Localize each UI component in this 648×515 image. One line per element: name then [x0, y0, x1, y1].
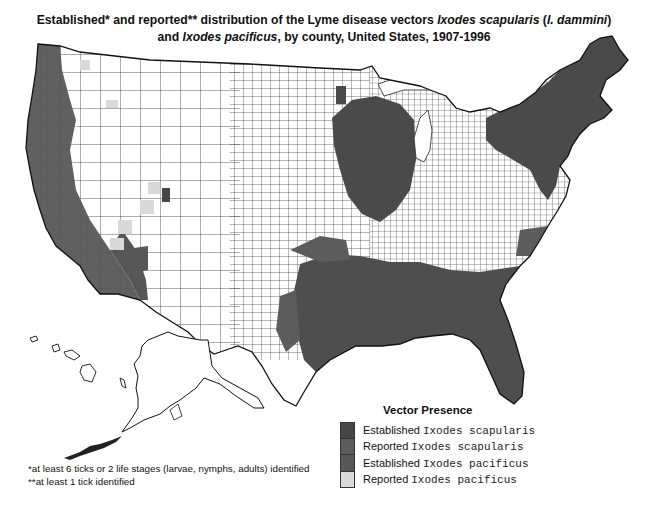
legend-species: Ixodes pacificus — [411, 474, 517, 486]
title-text: , by county, United States, 1907-1996 — [277, 30, 490, 44]
footnote-reported: **at least 1 tick identified — [28, 475, 310, 488]
legend-label: EstablishedIxodes scapularis — [363, 424, 535, 437]
title-synonym: I. dammini — [547, 13, 607, 27]
title-species: Ixodes pacificus — [183, 30, 278, 44]
legend-swatch — [340, 439, 355, 456]
footnotes: *at least 6 ticks or 2 life stages (larv… — [28, 462, 310, 488]
legend-species: Ixodes scapularis — [423, 425, 535, 437]
legend-label: ReportedIxodes pacificus — [363, 473, 517, 486]
legend-status: Reported — [363, 473, 408, 485]
title-paren: ) — [607, 13, 611, 27]
footnote-established: *at least 6 ticks or 2 life stages (larv… — [28, 462, 310, 475]
legend-item: ReportedIxodes pacificus — [340, 472, 535, 489]
legend-species: Ixodes scapularis — [411, 441, 523, 453]
southeast-established — [292, 254, 524, 404]
title-text: Established* and reported** distribution… — [37, 13, 437, 27]
legend-item: EstablishedIxodes pacificus — [340, 455, 535, 472]
hawaii — [30, 336, 126, 388]
contiguous-us — [20, 30, 630, 410]
legend: EstablishedIxodes scapularis ReportedIxo… — [340, 422, 535, 488]
legend-status: Established — [363, 457, 420, 469]
legend-item: ReportedIxodes scapularis — [340, 439, 535, 456]
title-paren: ( — [539, 13, 546, 27]
legend-swatch — [340, 472, 355, 489]
legend-swatch — [340, 422, 355, 439]
legend-species: Ixodes pacificus — [423, 458, 529, 470]
legend-swatch — [340, 455, 355, 472]
legend-item: EstablishedIxodes scapularis — [340, 422, 535, 439]
legend-label: ReportedIxodes scapularis — [363, 440, 523, 453]
title-text: and — [157, 30, 182, 44]
title-species: Ixodes scapularis — [437, 13, 539, 27]
us-county-map — [0, 0, 648, 515]
legend-label: EstablishedIxodes pacificus — [363, 457, 529, 470]
legend-status: Reported — [363, 440, 408, 452]
map-title: Established* and reported** distribution… — [0, 12, 648, 46]
legend-title: Vector Presence — [383, 404, 473, 416]
legend-status: Established — [363, 424, 420, 436]
